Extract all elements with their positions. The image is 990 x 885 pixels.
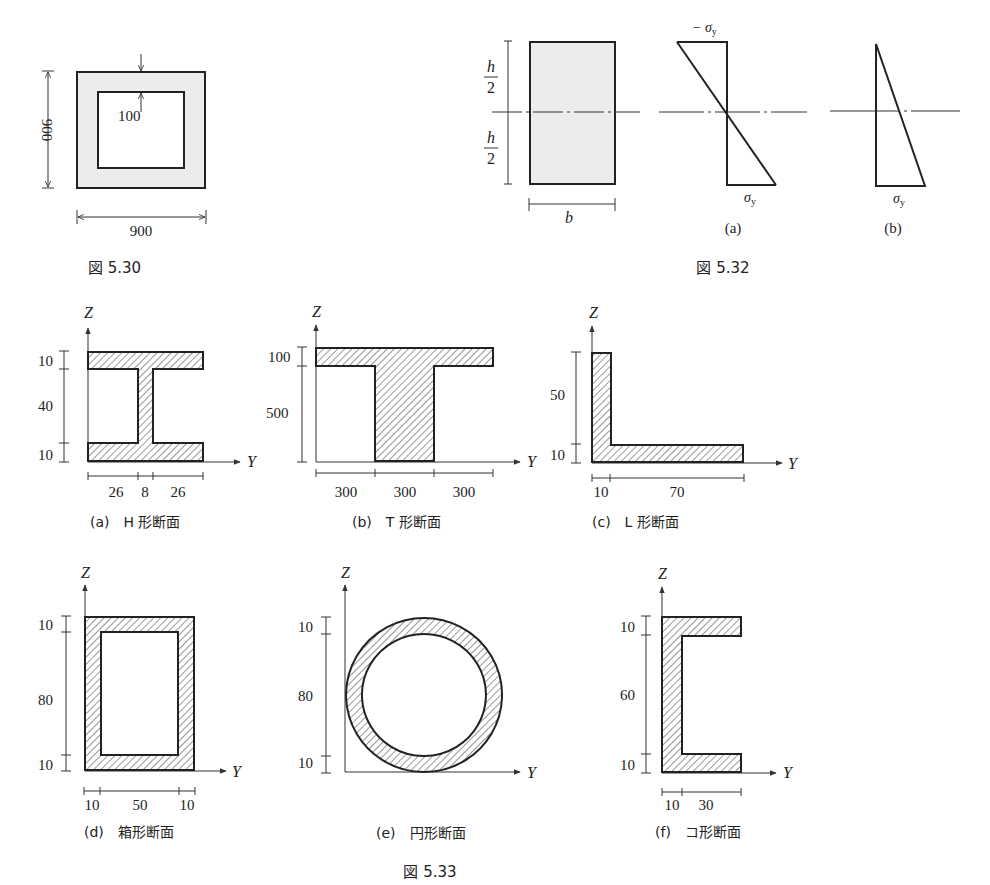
t-section: Z Y 100 500 300 300 300 (b) T 形断面: [266, 303, 538, 530]
dim-label: 10: [38, 353, 53, 369]
circular-section-label: (e) 円形断面: [376, 825, 466, 841]
z-axis-label: Z: [81, 564, 91, 581]
channel-section-label: (f) コ形断面: [655, 824, 741, 840]
h-label-top: h: [487, 58, 495, 75]
dim-label: 500: [266, 405, 289, 421]
l-section-label: (c) L 形断面: [592, 514, 679, 530]
label-b: (b): [884, 220, 902, 237]
dim-label: 10: [38, 757, 53, 773]
two-label-top: 2: [487, 79, 495, 96]
dim-label: 300: [335, 484, 358, 500]
wall-thickness-label: 100: [118, 108, 141, 124]
z-axis-label: Z: [84, 304, 94, 321]
dim-label: 10: [180, 797, 195, 813]
dim-label: 10: [620, 757, 635, 773]
dim-label: 10: [620, 619, 635, 635]
box-section-label: (d) 箱形断面: [84, 824, 174, 840]
y-axis-label: Y: [783, 764, 794, 781]
rect-section: [530, 42, 615, 184]
y-axis-label: Y: [788, 455, 799, 472]
z-axis-label: Z: [341, 564, 351, 581]
figure-canvas: 100 900 900 図 5.30 h 2 h 2 b − σy σy (a): [0, 0, 990, 885]
dim-label: 50: [550, 387, 565, 403]
dim-label: 50: [133, 797, 148, 813]
dim-label: 10: [594, 484, 609, 500]
h-section-label: (a) H 形断面: [90, 514, 180, 530]
y-axis-label: Y: [247, 453, 258, 470]
dim-label: 300: [394, 484, 417, 500]
l-section: Z Y 50 10 10 70 (c) L 形断面: [550, 304, 799, 530]
dim-label: 26: [171, 484, 187, 500]
figure-5-32: h 2 h 2 b − σy σy (a) σy (b) 図 5.32: [484, 20, 960, 277]
figure-5-30: 100 900 900 図 5.30: [39, 54, 206, 277]
box-section: Z Y 10 80 10 10 50 10 (d) 箱形断面: [38, 564, 243, 840]
h-section: Z Y 10 40 10 26 8 26 (a) H 形断面: [38, 304, 258, 530]
dim-label: 10: [298, 619, 313, 635]
z-axis-label: Z: [658, 565, 668, 582]
t-section-label: (b) T 形断面: [352, 514, 441, 530]
dim-label: 80: [298, 688, 313, 704]
dim-label: 10: [665, 797, 680, 813]
dim-label: 70: [670, 484, 685, 500]
y-axis-label: Y: [527, 764, 538, 781]
dim-label: 10: [38, 447, 53, 463]
label-a: (a): [725, 220, 742, 237]
dim-label: 300: [453, 484, 476, 500]
dim-label: 8: [141, 484, 149, 500]
caption-5-32: 図 5.32: [696, 259, 749, 277]
dim-label: 10: [298, 755, 313, 771]
dim-label: 80: [38, 692, 53, 708]
dim-label: 60: [620, 687, 635, 703]
sigma-y-label-b: σy: [893, 191, 905, 208]
dim-label: 10: [85, 797, 100, 813]
dim-label: 10: [550, 447, 565, 463]
sigma-y-label-a: σy: [744, 190, 756, 207]
dim-label: 26: [109, 484, 125, 500]
channel-section: Z Y 10 60 10 10 30 (f) コ形断面: [620, 565, 794, 840]
z-axis-label: Z: [312, 303, 322, 320]
caption-5-33: 図 5.33: [403, 863, 456, 881]
dim-label: 40: [38, 398, 53, 414]
dim-label: 30: [699, 797, 714, 813]
y-axis-label: Y: [527, 453, 538, 470]
z-axis-label: Z: [589, 304, 599, 321]
b-label: b: [565, 209, 573, 226]
neg-sigma-y-label: − σy: [692, 20, 717, 37]
dim-label: 10: [38, 617, 53, 633]
h-label-bottom: h: [487, 129, 495, 146]
circular-section: Z Y 10 80 10 (e) 円形断面: [298, 564, 538, 841]
dim-label: 100: [268, 349, 291, 365]
stress-triangle-b: [876, 44, 925, 186]
y-axis-label: Y: [232, 763, 243, 780]
two-label-bottom: 2: [487, 150, 495, 167]
height-label: 900: [39, 119, 55, 142]
width-label: 900: [130, 223, 153, 239]
caption-5-30: 図 5.30: [88, 259, 141, 277]
